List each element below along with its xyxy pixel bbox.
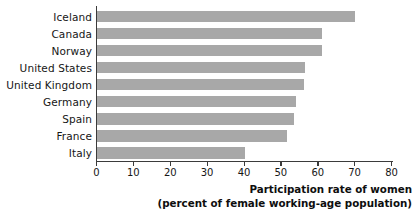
x-axis-tick-label: 40 [238, 167, 251, 178]
bar-row: Norway [97, 42, 392, 59]
bar [97, 113, 294, 124]
x-axis-tick-label: 20 [164, 167, 177, 178]
x-axis-tick-label: 30 [201, 167, 214, 178]
x-axis-tick-label: 60 [311, 167, 324, 178]
x-axis-tick [317, 161, 318, 166]
x-axis-tick-label: 50 [275, 167, 288, 178]
x-axis-tick-label: 0 [93, 167, 99, 178]
category-label: Spain [62, 113, 92, 125]
bar [97, 130, 287, 141]
x-axis-tick-label: 10 [127, 167, 140, 178]
bar-row: Iceland [97, 8, 392, 25]
category-label: France [56, 130, 92, 142]
x-axis-tick-label: 70 [348, 167, 361, 178]
bar [97, 79, 304, 90]
x-axis-tick [207, 161, 208, 166]
category-label: United States [20, 62, 92, 74]
bar [97, 147, 245, 158]
bar [97, 11, 355, 22]
bar-row: Italy [97, 145, 392, 162]
bar-row: France [97, 128, 392, 145]
category-label: United Kingdom [6, 79, 92, 91]
x-axis-tick [133, 161, 134, 166]
bar [97, 45, 322, 56]
bar [97, 62, 305, 73]
category-label: Norway [52, 45, 92, 57]
bar-row: United States [97, 59, 392, 76]
x-axis-title-line-1: Participation rate of women [157, 183, 412, 197]
bar-row: Germany [97, 94, 392, 111]
x-axis-tick-label: 80 [385, 167, 398, 178]
category-label: Canada [51, 28, 92, 40]
bar [97, 96, 296, 107]
x-axis-title-line-2: (percent of female working-age populatio… [157, 197, 412, 211]
x-axis-tick [354, 161, 355, 166]
bar-row: Spain [97, 111, 392, 128]
category-label: Iceland [53, 11, 92, 23]
x-axis-tick [170, 161, 171, 166]
bar-row: United Kingdom [97, 76, 392, 93]
x-axis-tick [96, 161, 97, 166]
bar-row: Canada [97, 25, 392, 42]
x-axis-tick [280, 161, 281, 166]
plot-area: IcelandCanadaNorwayUnited StatesUnited K… [97, 6, 392, 161]
x-axis-tick [244, 161, 245, 166]
x-axis-title: Participation rate of women (percent of … [157, 183, 412, 210]
bar-chart: IcelandCanadaNorwayUnited StatesUnited K… [0, 0, 416, 218]
category-label: Germany [43, 96, 92, 108]
x-axis-tick [391, 161, 392, 166]
bar [97, 28, 322, 39]
category-label: Italy [69, 147, 92, 159]
